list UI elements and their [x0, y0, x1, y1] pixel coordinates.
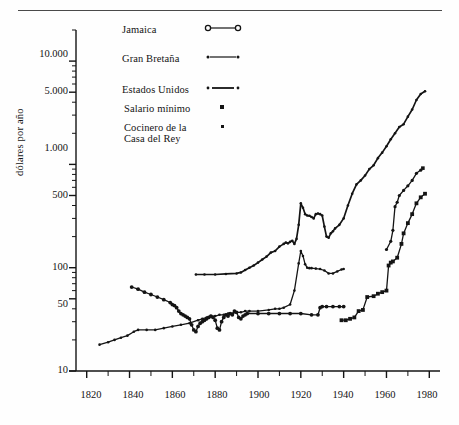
legend-swatch-gran-bretana	[207, 56, 240, 59]
legend-swatch-estados-unidos	[207, 87, 240, 90]
legend-swatch-cocinero	[221, 125, 224, 128]
legend-markers	[205, 25, 240, 128]
chart-figure: dólares por año 10.000 5.000 1.000 500 1…	[0, 0, 459, 425]
series-cocinero-de-la-casa-del-rey	[385, 166, 425, 251]
legend-swatch-salario-minimo	[220, 105, 224, 109]
axes	[69, 30, 440, 378]
plot-canvas	[0, 0, 459, 425]
legend-swatch-jamaica	[205, 25, 240, 30]
series-gran-bretana	[98, 250, 345, 346]
series-estados-unidos	[195, 90, 427, 276]
isolated-marker	[421, 166, 425, 170]
x-axis-ticks	[87, 371, 430, 378]
data-series-layer	[98, 90, 427, 346]
series-jamaica	[130, 285, 346, 333]
y-axis-ticks	[69, 30, 76, 371]
series-salario-minimo	[340, 192, 427, 322]
